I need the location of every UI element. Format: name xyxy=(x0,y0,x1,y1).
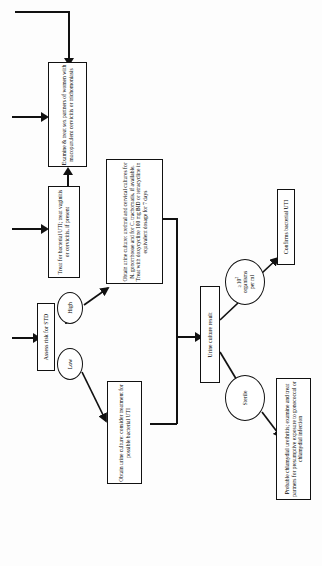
node-examine-treat-partners[interactable]: Examine & treat sex partners of women wi… xyxy=(48,62,87,167)
edge-treat-examine-arrowhead xyxy=(63,167,73,175)
node-result-positive[interactable]: ≥102 organisms per ml xyxy=(225,259,265,305)
node-result-positive-label: ≥102 organisms per ml xyxy=(235,261,255,303)
edge-entry-examine-line xyxy=(12,116,42,118)
edge-feedback-vertical xyxy=(68,11,70,60)
node-branch-high-label: High xyxy=(67,294,74,322)
node-examine-treat-partners-label: Examine & treat sex partners of women wi… xyxy=(61,64,74,165)
edge-feedback-horizontal xyxy=(15,11,70,13)
node-result-positive-exponent: 2 xyxy=(235,277,239,279)
node-result-positive-line3: per ml xyxy=(249,261,255,303)
node-treat-bacterial-uti[interactable]: Treat for bacterial UTI; treat vaginitis… xyxy=(48,186,80,278)
node-obtain-culture-high-risk[interactable]: Obtain urine culture: urethral and cervi… xyxy=(106,159,163,284)
node-probable-chlamydial-urethritis[interactable]: Probable chlamydial urethritis; examine … xyxy=(276,378,311,500)
edge-merge-to-result-line xyxy=(176,336,196,338)
node-result-positive-line1: ≥102 xyxy=(235,261,242,303)
node-confirms-bacterial-uti[interactable]: Confirms bacterial UTI xyxy=(277,189,295,265)
edge-merge-bottom-stub xyxy=(150,423,177,425)
node-obtain-culture-low-risk[interactable]: Obtain urine culture: consider treatment… xyxy=(107,381,142,484)
node-branch-high[interactable]: High xyxy=(57,292,83,324)
edge-treat-examine-line xyxy=(67,174,69,186)
node-branch-low[interactable]: Low xyxy=(57,348,83,380)
node-treat-bacterial-uti-label: Treat for bacterial UTI; treat vaginitis… xyxy=(57,188,70,276)
edge-merge-top-stub xyxy=(163,218,177,220)
edge-entry-assess-line xyxy=(12,337,34,339)
node-confirms-bacterial-uti-label: Confirms bacterial UTI xyxy=(283,190,290,264)
node-result-sterile-label: Sterile xyxy=(242,377,249,419)
flowchart-canvas: Examine & treat sex partners of women wi… xyxy=(0,0,322,566)
node-assess-risk-for-std[interactable]: Assess risk for STD xyxy=(37,303,55,371)
node-assess-risk-for-std-label: Assess risk for STD xyxy=(43,304,50,370)
node-urine-culture-result-label: Urine culture result xyxy=(207,288,214,382)
node-urine-culture-result[interactable]: Urine culture result xyxy=(200,286,220,383)
node-obtain-culture-high-risk-label: Obtain urine culture: urethral and cervi… xyxy=(121,161,147,282)
edge-merge-vertical xyxy=(176,218,178,424)
node-obtain-culture-low-risk-label: Obtain urine culture: consider treatment… xyxy=(118,383,131,482)
edge-entry-treat-line xyxy=(12,228,42,230)
node-probable-chlamydial-urethritis-label: Probable chlamydial urethritis; examine … xyxy=(283,380,303,498)
node-branch-low-label: Low xyxy=(67,350,74,378)
node-result-sterile[interactable]: Sterile xyxy=(225,375,265,421)
